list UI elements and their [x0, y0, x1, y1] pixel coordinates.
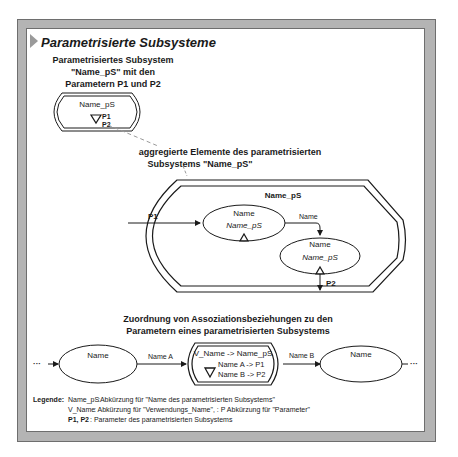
title-arrow-icon — [30, 34, 38, 48]
right-ellipsis: ··· — [410, 359, 418, 368]
symbol-param2: P2 — [102, 121, 111, 128]
section2-heading-line2: Subsystems "Name_pS" — [147, 159, 252, 169]
element1-triangle-icon — [240, 234, 248, 241]
section3-heading-line2: Parametern eines parametrisierten Subsys… — [126, 326, 330, 336]
association-mapping-row: ··· Name Name A V_Name -> Name_pS Name A… — [33, 343, 418, 385]
section1-heading-line3: Parametern P1 und P2 — [65, 79, 161, 89]
subsystem-line1: V_Name -> Name_pS — [194, 349, 272, 358]
container-name: Name_pS — [265, 191, 302, 200]
legend-text-2: : Abkürzung für "Verwendungs_Name", : P … — [94, 406, 311, 414]
pointer-dashed-line — [108, 125, 158, 146]
element2-triangle-icon — [316, 267, 324, 274]
diagram-canvas: Parametrisierte Subsysteme Parametrisier… — [0, 0, 458, 457]
legend-text-3: : Parameter des parametrisierten Subsyst… — [90, 416, 233, 424]
connection-label: Name — [299, 213, 318, 220]
section1-heading-line2: "Name_pS" mit den — [71, 67, 155, 77]
legend-text-1: :Abkürzung für "Name des parametrisierte… — [98, 396, 275, 404]
subsystem-symbol: Name_pS P1 P2 — [54, 93, 140, 131]
subsystem-triangle-icon — [205, 368, 215, 377]
subsystem-line3: Name B -> P2 — [218, 370, 265, 379]
aggregated-subsystem-container: Name_pS P1 Name Name_pS Name Name Name_p… — [128, 180, 406, 292]
parameter-triangle-icon — [91, 115, 101, 123]
output-param-label: P2 — [326, 279, 336, 288]
legend-key-2: V_Name — [68, 406, 95, 414]
left-ellipsis: ··· — [33, 359, 41, 368]
legend-label: Legende: — [33, 396, 64, 404]
legend-key-1: Name_pS — [68, 396, 99, 404]
symbol-name: Name_pS — [79, 100, 115, 109]
assoc-a-label: Name A — [148, 353, 173, 360]
input-param-label: P1 — [148, 212, 158, 221]
legend-key-3: P1, P2 — [68, 416, 89, 424]
element1-subname: Name_pS — [226, 221, 262, 230]
section2-heading-line1: aggregierte Elemente des parametrisierte… — [139, 147, 322, 157]
page-title: Parametrisierte Subsysteme — [41, 35, 216, 50]
section3-heading-line1: Zuordnung von Assoziationsbeziehungen zu… — [123, 314, 333, 324]
assoc-b-label: Name B — [289, 352, 315, 359]
legend: Legende: Name_pS :Abkürzung für "Name de… — [33, 396, 311, 424]
connection-arrow — [285, 223, 320, 235]
section1-heading-line1: Parametrisiertes Subsystem — [52, 55, 173, 65]
element1-name: Name — [233, 209, 255, 218]
right-element-name: Name — [350, 350, 372, 359]
left-element-name: Name — [87, 351, 109, 360]
element2-subname: Name_pS — [302, 253, 338, 262]
subsystem-line2: Name A -> P1 — [218, 360, 264, 369]
element2-name: Name — [309, 240, 331, 249]
symbol-param1: P1 — [102, 113, 111, 120]
